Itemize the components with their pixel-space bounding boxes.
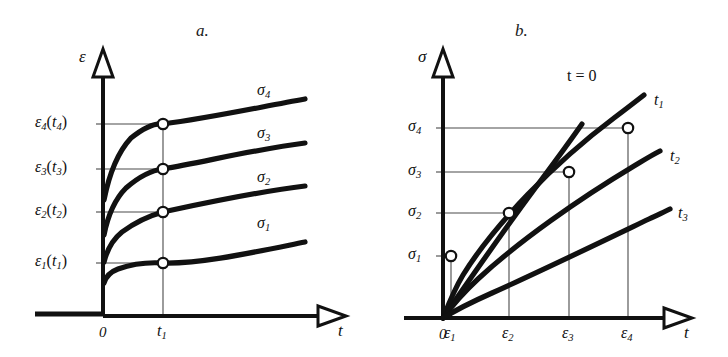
panel-b-ytick-sigma2: σ2 — [408, 203, 421, 222]
panel-a-curve-label-sigma3: σ3 — [257, 125, 270, 144]
panel-a-ytick-eps2: ε2(t2) — [35, 202, 67, 221]
b-t1-sub: 1 — [658, 99, 663, 110]
isochrone-curve-t3 — [443, 209, 670, 318]
b-sigma1-sub: 1 — [416, 253, 421, 264]
panel-b-xtick-eps2: ε2 — [502, 325, 514, 344]
panel-b-curve-label-t1: t1 — [654, 92, 664, 111]
sigma1-sub: 1 — [265, 222, 270, 233]
panel-b-xtick-eps1: ε1 — [444, 325, 456, 344]
sigma4-base: σ — [257, 81, 265, 98]
marker-sigma3-t1 — [158, 164, 168, 174]
creep-isochrone-figure: a. — [0, 0, 728, 357]
y-axis-arrowhead — [93, 49, 113, 77]
marker-sigma1-t1 — [158, 258, 168, 268]
panel-a-ytick-eps1: ε1(t1) — [35, 253, 67, 272]
b-sigma2-sub: 2 — [416, 210, 421, 221]
b-t2-sub: 2 — [674, 155, 679, 166]
b-eps2-sub: 2 — [508, 332, 513, 343]
panel-b-ytick-sigma1: σ1 — [408, 246, 421, 265]
b-sigma3-base: σ — [408, 161, 416, 178]
panel-a-x-axis-label: t — [338, 322, 343, 339]
panel-a-curve-label-sigma1: σ1 — [257, 215, 270, 234]
marker-sigma4-t1 — [158, 119, 168, 129]
panel-a-xtick-t1: t1 — [157, 323, 167, 342]
panel-a-curve-label-sigma4: σ4 — [257, 82, 270, 101]
panel-b-curve-label-t2: t2 — [670, 148, 680, 167]
panel-b-xtick-eps4: ε4 — [621, 325, 633, 344]
y-axis-arrowhead — [433, 49, 453, 77]
eps3-paren-close: ) — [62, 158, 67, 175]
sigma1-base: σ — [257, 214, 265, 231]
panel-a-plot — [0, 0, 364, 357]
b-sigma2-base: σ — [408, 202, 416, 219]
panel-a-curve-label-sigma2: σ2 — [257, 169, 270, 188]
sigma3-sub: 3 — [265, 132, 270, 143]
panel-a-creep-curves: a. — [0, 0, 364, 357]
sigma3-base: σ — [257, 124, 265, 141]
isochrone-curve-t0 — [443, 124, 582, 318]
panel-b-isochrones: b. — [364, 0, 728, 357]
marker-t1-eps2 — [504, 208, 514, 218]
marker-t1-eps3 — [564, 167, 574, 177]
b-sigma4-base: σ — [408, 117, 416, 134]
b-t3-sub: 3 — [682, 212, 687, 223]
b-sigma1-base: σ — [408, 245, 416, 262]
panel-b-y-axis-label: σ — [418, 48, 426, 65]
b-eps4-sub: 4 — [627, 332, 632, 343]
panel-b-xtick-eps3: ε3 — [562, 325, 574, 344]
panel-a-ytick-eps3: ε3(t3) — [35, 159, 67, 178]
panel-a-ytick-eps4: ε4(t4) — [35, 114, 67, 133]
creep-curve-sigma1 — [104, 242, 305, 283]
marker-sigma2-t1 — [158, 207, 168, 217]
b-sigma3-sub: 3 — [416, 169, 421, 180]
eps4-paren-close: ) — [62, 113, 67, 130]
panel-a-y-axis-label: ε — [79, 48, 86, 65]
marker-t1-eps1 — [446, 251, 456, 261]
panel-b-ytick-sigma3: σ3 — [408, 162, 421, 181]
sigma4-sub: 4 — [265, 89, 270, 100]
b-eps1-sub: 1 — [450, 332, 455, 343]
marker-t1-eps4 — [623, 123, 633, 133]
panel-b-curve-label-t0: t = 0 — [567, 68, 596, 84]
sigma2-sub: 2 — [265, 176, 270, 187]
panel-b-curve-label-t3: t3 — [678, 205, 688, 224]
eps2-paren-close: ) — [62, 201, 67, 218]
panel-b-x-axis-label: t — [684, 324, 689, 341]
panel-b-ytick-sigma4: σ4 — [408, 118, 421, 137]
b-eps3-sub: 3 — [568, 332, 573, 343]
panel-a-origin-label: 0 — [99, 325, 107, 340]
t1-sub: 1 — [161, 330, 166, 341]
b-sigma4-sub: 4 — [416, 125, 421, 136]
sigma2-base: σ — [257, 168, 265, 185]
eps1-paren-close: ) — [62, 252, 67, 269]
